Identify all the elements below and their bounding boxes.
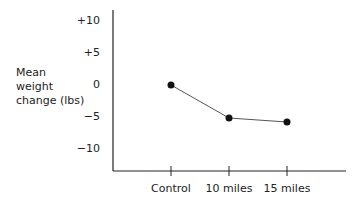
x-tick-label: Control (141, 182, 201, 195)
x-tick-label: 10 miles (199, 182, 259, 195)
y-tick-label: 0 (60, 78, 100, 91)
data-point-control (168, 82, 175, 89)
y-label-line-3: change (lbs) (16, 94, 84, 108)
y-tick-label: −10 (60, 142, 100, 155)
data-point-10-miles (226, 115, 233, 122)
data-point-15-miles (284, 119, 291, 126)
y-tick-label: −5 (60, 110, 100, 123)
y-tick-label: +5 (60, 46, 100, 59)
y-tick-label: +10 (60, 14, 100, 27)
x-tick-label: 15 miles (257, 182, 317, 195)
